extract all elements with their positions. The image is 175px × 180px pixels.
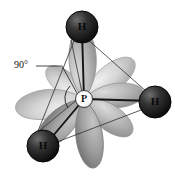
atom-label-h-top: H: [78, 20, 87, 32]
atom-h-top: H: [66, 11, 98, 43]
atom-p-center: P: [76, 91, 93, 108]
atom-h-right: H: [139, 86, 171, 118]
atom-h-bottom-left: H: [27, 130, 59, 162]
diagram-canvas: H H H P 90°: [0, 0, 175, 180]
ph3-orbital-diagram: H H H P 90°: [0, 0, 175, 180]
atom-label-h-right: H: [151, 95, 160, 107]
bond-angle-label: 90°: [14, 59, 28, 70]
atom-label-p: P: [81, 93, 87, 104]
atom-label-h-bottom-left: H: [39, 139, 48, 151]
